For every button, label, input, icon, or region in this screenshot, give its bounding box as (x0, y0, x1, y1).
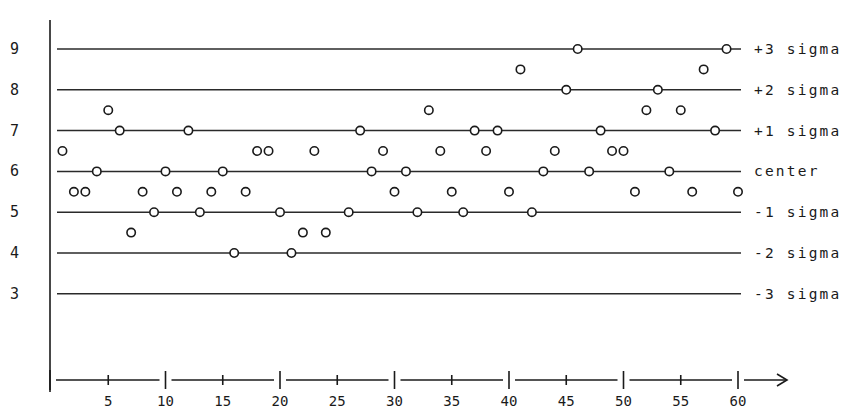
data-point-marker (116, 126, 124, 134)
x-tick-label: 50 (615, 393, 632, 409)
data-point-marker (219, 167, 227, 175)
data-point-marker (722, 45, 730, 53)
data-point-marker (196, 208, 204, 216)
data-point-marker (390, 188, 398, 196)
data-point-marker (58, 147, 66, 155)
x-tick-label: 40 (501, 393, 518, 409)
y-tick-label: 5 (10, 203, 19, 221)
data-point-marker (413, 208, 421, 216)
data-point-marker (81, 188, 89, 196)
data-point-marker (276, 208, 284, 216)
sigma-line-label: +2 sigma (754, 82, 841, 98)
data-point-marker (310, 147, 318, 155)
data-point-marker (184, 126, 192, 134)
data-point-marker (70, 188, 78, 196)
data-point-marker (104, 106, 112, 114)
data-point-marker (287, 249, 295, 257)
data-point-marker (562, 86, 570, 94)
x-tick-label: 35 (443, 393, 460, 409)
data-point-marker (711, 126, 719, 134)
sigma-line-label: center (754, 163, 820, 179)
sigma-line-label: +3 sigma (754, 41, 841, 57)
data-point-marker (734, 188, 742, 196)
x-tick-label: 5 (104, 393, 112, 409)
data-point-marker (436, 147, 444, 155)
data-point-marker (127, 228, 135, 236)
data-point-marker (482, 147, 490, 155)
data-point-marker (470, 126, 478, 134)
x-tick-label: 15 (214, 393, 231, 409)
data-point-marker (93, 167, 101, 175)
data-point-marker (173, 188, 181, 196)
data-point-marker (608, 147, 616, 155)
data-point-marker (654, 86, 662, 94)
data-point-marker (585, 167, 593, 175)
data-point-marker (516, 65, 524, 73)
y-tick-label: 8 (10, 81, 19, 99)
data-point-marker (539, 167, 547, 175)
data-point-marker (631, 188, 639, 196)
x-tick-label: 20 (272, 393, 289, 409)
x-tick-label: 30 (386, 393, 403, 409)
data-point-marker (688, 188, 696, 196)
data-point-marker (699, 65, 707, 73)
data-point-marker (367, 167, 375, 175)
x-tick-label: 55 (672, 393, 689, 409)
x-axis-tick-labels: 51015202530354045505560 (104, 393, 746, 409)
data-point-marker (425, 106, 433, 114)
data-point-marker (241, 188, 249, 196)
sigma-line-label: -2 sigma (754, 245, 841, 261)
y-axis-tick-labels: 3456789 (10, 40, 19, 303)
data-point-marker (551, 147, 559, 155)
x-tick-label: 25 (329, 393, 346, 409)
x-tick-label: 60 (730, 393, 747, 409)
data-point-marker (161, 167, 169, 175)
data-point-marker (345, 208, 353, 216)
data-point-marker (505, 188, 513, 196)
sigma-line-label: -3 sigma (754, 286, 841, 302)
data-point-marker (138, 188, 146, 196)
data-point-marker (642, 106, 650, 114)
data-point-marker (253, 147, 261, 155)
data-point-marker (264, 147, 272, 155)
y-tick-label: 9 (10, 40, 19, 58)
sigma-line-label: -1 sigma (754, 204, 841, 220)
data-points (58, 45, 742, 257)
data-point-marker (207, 188, 215, 196)
data-point-marker (150, 208, 158, 216)
sigma-line-label: +1 sigma (754, 123, 841, 139)
y-tick-label: 7 (10, 122, 19, 140)
y-tick-label: 6 (10, 162, 19, 180)
data-point-marker (677, 106, 685, 114)
data-point-marker (665, 167, 673, 175)
x-axis (50, 370, 787, 390)
data-point-marker (356, 126, 364, 134)
data-point-marker (230, 249, 238, 257)
y-tick-label: 3 (10, 285, 19, 303)
data-point-marker (619, 147, 627, 155)
data-point-marker (459, 208, 467, 216)
x-tick-label: 45 (558, 393, 575, 409)
data-point-marker (379, 147, 387, 155)
data-point-marker (299, 228, 307, 236)
sigma-reference-lines: +3 sigma+2 sigma+1 sigmacenter-1 sigma-2… (57, 41, 841, 302)
data-point-marker (528, 208, 536, 216)
data-point-marker (493, 126, 501, 134)
x-tick-label: 10 (157, 393, 174, 409)
data-point-marker (574, 45, 582, 53)
y-tick-label: 4 (10, 244, 19, 262)
data-point-marker (448, 188, 456, 196)
data-point-marker (596, 126, 604, 134)
data-point-marker (322, 228, 330, 236)
control-chart: +3 sigma+2 sigma+1 sigmacenter-1 sigma-2… (0, 0, 860, 419)
data-point-marker (402, 167, 410, 175)
